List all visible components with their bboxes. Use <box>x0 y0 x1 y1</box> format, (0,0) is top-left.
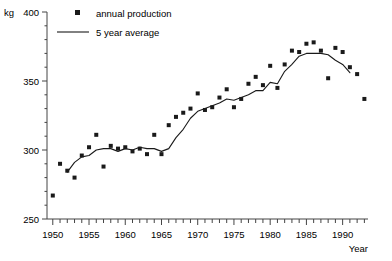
data-point-marker <box>225 87 229 91</box>
data-point-marker <box>355 72 359 76</box>
data-point-marker <box>188 107 192 111</box>
data-point-marker <box>261 83 265 87</box>
x-tick-label: 1980 <box>260 229 281 240</box>
x-tick-label: 1985 <box>296 229 317 240</box>
data-point-marker <box>181 111 185 115</box>
data-point-marker <box>80 154 84 158</box>
legend-label-annual-production: annual production <box>96 8 172 19</box>
data-point-marker <box>167 123 171 127</box>
data-point-marker <box>131 149 135 153</box>
data-point-marker <box>159 152 163 156</box>
data-point-marker <box>109 144 113 148</box>
y-tick-label: 250 <box>23 214 39 225</box>
data-point-marker <box>297 50 301 54</box>
data-point-marker <box>94 133 98 137</box>
y-tick-label: 350 <box>23 76 39 87</box>
data-point-marker <box>326 76 330 80</box>
production-chart: 250300350400 195019551960196519701975198… <box>0 0 392 261</box>
data-point-marker <box>312 40 316 44</box>
data-point-marker <box>196 91 200 95</box>
x-axis-title: Year <box>349 243 368 254</box>
data-point-marker <box>333 46 337 50</box>
data-point-marker <box>283 62 287 66</box>
x-tick-label: 1960 <box>115 229 136 240</box>
x-tick-label: 1955 <box>78 229 99 240</box>
chart-background <box>0 0 392 261</box>
data-point-marker <box>138 147 142 151</box>
data-point-marker <box>203 108 207 112</box>
data-point-marker <box>65 169 69 173</box>
data-point-marker <box>152 133 156 137</box>
data-point-marker <box>304 42 308 46</box>
y-axis-unit-label: kg <box>4 7 14 18</box>
x-tick-label: 1975 <box>223 229 244 240</box>
x-tick-label: 1970 <box>187 229 208 240</box>
data-point-marker <box>116 147 120 151</box>
data-point-marker <box>341 50 345 54</box>
y-tick-label: 300 <box>23 145 39 156</box>
x-tick-label: 1990 <box>332 229 353 240</box>
data-point-marker <box>348 65 352 69</box>
data-point-marker <box>319 49 323 53</box>
data-point-marker <box>275 86 279 90</box>
x-tick-label: 1950 <box>42 229 63 240</box>
data-point-marker <box>246 82 250 86</box>
x-tick-label: 1965 <box>151 229 172 240</box>
legend-label-five-year-average: 5 year average <box>96 27 159 38</box>
data-point-marker <box>145 152 149 156</box>
data-point-marker <box>102 165 106 169</box>
data-point-marker <box>87 145 91 149</box>
data-point-marker <box>217 96 221 100</box>
data-point-marker <box>232 105 236 109</box>
data-point-marker <box>210 105 214 109</box>
data-point-marker <box>268 64 272 68</box>
data-point-marker <box>254 75 258 79</box>
data-point-marker <box>58 162 62 166</box>
data-point-marker <box>290 49 294 53</box>
data-point-marker <box>123 145 127 149</box>
data-point-marker <box>174 115 178 119</box>
legend-marker-square <box>75 10 80 15</box>
data-point-marker <box>239 97 243 101</box>
y-tick-label: 400 <box>23 7 39 18</box>
x-axis-tick-labels: 195019551960196519701975198019851990 <box>42 229 353 240</box>
data-point-marker <box>362 97 366 101</box>
data-point-marker <box>51 194 55 198</box>
data-point-marker <box>73 176 77 180</box>
chart-container: 250300350400 195019551960196519701975198… <box>0 0 392 261</box>
